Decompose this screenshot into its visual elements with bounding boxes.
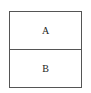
cell-b: B (10, 50, 81, 87)
cell-a: A (10, 12, 81, 50)
stacked-box-diagram: A B (9, 11, 82, 88)
cell-b-label: B (42, 63, 49, 74)
cell-a-label: A (42, 25, 49, 36)
